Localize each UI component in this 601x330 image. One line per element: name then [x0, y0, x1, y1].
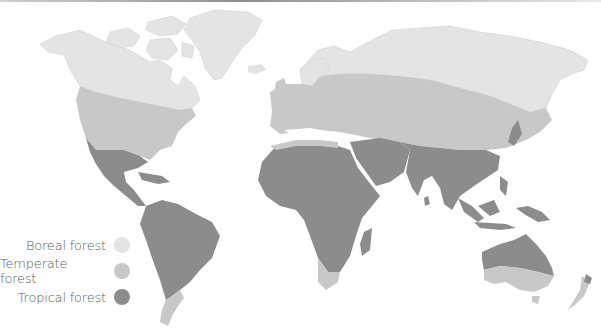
temperate-swatch-icon [114, 263, 130, 279]
boreal-swatch-icon [114, 237, 130, 253]
sri-lanka [424, 196, 430, 206]
caribbean [138, 172, 170, 184]
legend-item-tropical: Tropical forest [0, 284, 130, 310]
legend-label: Temperate forest [0, 256, 106, 286]
legend-label: Boreal forest [26, 238, 106, 253]
legend-label: Tropical forest [18, 290, 106, 305]
madagascar [360, 228, 372, 256]
south-america-tropical [140, 200, 220, 300]
tasmania [532, 296, 540, 304]
tropical-swatch-icon [114, 289, 130, 305]
iceland [248, 64, 266, 74]
legend-item-boreal: Boreal forest [0, 232, 130, 258]
legend-item-temperate: Temperate forest [0, 258, 130, 284]
south-asia-tropical [400, 142, 500, 210]
legend: Boreal forest Temperate forest Tropical … [0, 232, 130, 310]
